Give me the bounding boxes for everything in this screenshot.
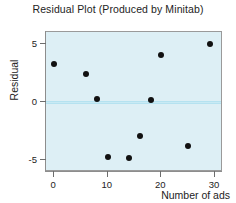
y-tick-mark: [40, 159, 46, 160]
x-tick-label: 10: [101, 179, 112, 190]
y-tick-label: 5: [32, 37, 37, 48]
y-tick-label: -5: [29, 154, 37, 165]
data-point: [185, 143, 191, 149]
data-point: [83, 71, 89, 77]
data-point: [126, 155, 132, 161]
y-tick-mark: [40, 101, 46, 102]
data-point: [158, 52, 164, 58]
y-axis-title: Residual: [8, 45, 20, 115]
x-tick-label: 30: [209, 179, 220, 190]
y-tick-label: 0: [32, 96, 37, 107]
x-tick-mark: [214, 171, 215, 177]
x-tick-label: 0: [50, 179, 55, 190]
x-axis-line: [45, 171, 222, 172]
x-tick-mark: [160, 171, 161, 177]
data-point: [207, 41, 213, 47]
data-point: [148, 97, 154, 103]
x-axis-title: Number of ads: [161, 189, 230, 201]
residual-plot-figure: Residual Plot (Produced by Minitab) Resi…: [0, 0, 236, 203]
x-tick-mark: [53, 171, 54, 177]
data-point: [105, 154, 111, 160]
x-tick-mark: [107, 171, 108, 177]
data-point: [94, 96, 100, 102]
chart-title: Residual Plot (Produced by Minitab): [0, 3, 236, 15]
data-point: [51, 61, 57, 67]
data-point: [137, 133, 143, 139]
plot-area: [45, 31, 222, 171]
x-tick-label: 20: [155, 179, 166, 190]
y-tick-mark: [40, 43, 46, 44]
zero-reference-line: [46, 101, 221, 104]
